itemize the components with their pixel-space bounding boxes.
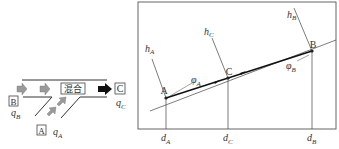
h-c-label: hC — [204, 26, 214, 39]
mixing-junction-diagram: 混合 C B A qB qA qC — [9, 80, 126, 140]
d-a-label: dA — [161, 132, 171, 146]
profile-diagram: A C B hA hC hB φA φB dA dC dB — [138, 2, 336, 146]
phi-a-leader — [170, 83, 192, 96]
d-b-label: dB — [307, 132, 317, 146]
flow-tick-1-icon — [214, 80, 220, 84]
outlet-c-label: C — [117, 83, 124, 94]
h-a-label: hA — [145, 43, 155, 56]
pipe-line — [150, 40, 336, 111]
point-b-label: B — [310, 39, 317, 50]
point-c-label: C — [226, 66, 233, 77]
pipe-segment-ab — [166, 51, 312, 98]
flow-arrow-b2-icon — [40, 83, 50, 95]
flow-c-label: qC — [116, 97, 126, 111]
point-a-label: A — [160, 85, 168, 96]
mix-label: 混合 — [64, 83, 82, 94]
inlet-a-label: A — [38, 126, 45, 136]
flow-a-label: qA — [53, 126, 63, 140]
outlet-arrow-icon — [98, 83, 112, 95]
inlet-b-label: B — [10, 97, 16, 107]
flow-arrow-b1-icon — [17, 83, 27, 95]
d-c-label: dC — [223, 132, 233, 146]
flow-arrow-a2-icon — [47, 107, 56, 116]
flow-b-label: qB — [11, 107, 21, 121]
phi-b-label: φB — [286, 60, 297, 74]
diagram-canvas: 混合 C B A qB qA qC — [0, 0, 339, 149]
frame — [138, 2, 336, 129]
phi-a-label: φA — [191, 74, 202, 88]
flow-arrow-a1-icon — [57, 97, 66, 106]
